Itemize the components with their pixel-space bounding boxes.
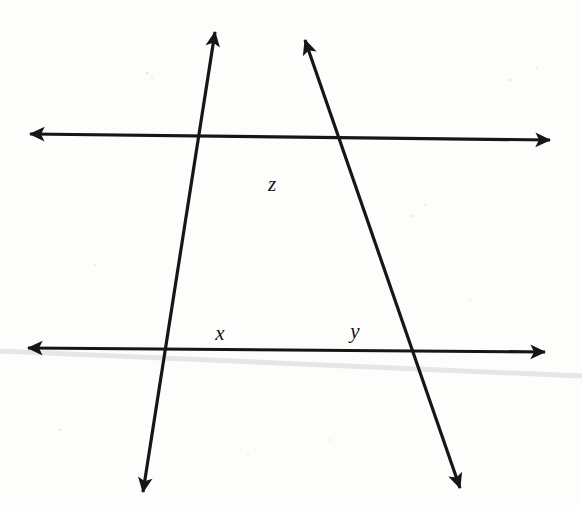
diagram-canvas — [0, 0, 582, 506]
scanner-streak — [0, 351, 582, 376]
right-transversal-line — [305, 40, 460, 488]
scanner-streak-group — [0, 351, 582, 376]
angle-label-z: z — [268, 174, 276, 195]
angle-label-y: y — [350, 321, 359, 342]
upper-parallel-line — [30, 134, 550, 140]
lower-parallel-line — [28, 348, 545, 352]
angle-label-x: x — [215, 323, 224, 344]
geometry-diagram: z x y — [0, 0, 582, 506]
figure-lines — [28, 32, 550, 492]
left-transversal-line — [143, 32, 215, 492]
